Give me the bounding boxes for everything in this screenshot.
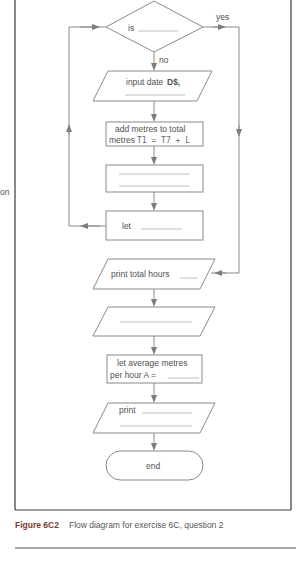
decision-diamond [106,1,203,52]
yes-connector [203,27,239,273]
add-metres-line1: add metres to total [115,124,186,134]
average-metres-line2: per hour A = [110,370,156,380]
let-label: let [122,221,132,231]
decision-label: is [128,23,134,33]
blank-output-parallelogram [93,307,215,336]
print-label: print [119,405,136,415]
end-label: end [146,461,160,471]
input-date-label: input date [126,77,164,87]
caption-text: Flow diagram for exercise 6C, question 2 [69,520,224,530]
loop-back-connector [69,27,106,226]
blank-process-box [106,165,203,192]
average-metres-line1: let average metres [117,358,187,368]
margin-text-fragment: on [0,187,9,197]
no-label: no [159,55,169,65]
let-box [106,211,203,240]
print-parallelogram [93,403,215,433]
flow-diagram: is yes no input date D$, add metres to t… [0,0,296,566]
figure-caption: Figure 6C2Flow diagram for exercise 6C, … [15,520,223,530]
print-total-hours-label: print total hours [111,269,170,279]
figure-label: Figure 6C2 [15,520,59,530]
input-date-var: D$, [167,77,180,87]
add-metres-formula: T1 = T7 + L [137,136,190,145]
yes-label: yes [216,12,229,22]
add-metres-line2-prefix: metres [109,135,135,145]
